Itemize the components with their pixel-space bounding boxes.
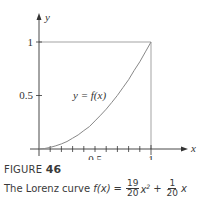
fraction-1-20: 1 20 xyxy=(166,179,179,198)
lorenz-curve-plot: y x 0.5 1 0.5 1 y = f(x) xyxy=(0,0,207,160)
figure-number: 46 xyxy=(46,163,62,176)
curve-label: y = f(x) xyxy=(72,89,106,102)
caption-equals: = xyxy=(114,182,122,195)
caption-func: f(x) xyxy=(93,182,110,195)
fraction-denominator: 20 xyxy=(166,189,179,198)
fraction-numerator: 1 xyxy=(168,179,176,189)
term-x: x xyxy=(181,182,187,195)
fraction-denominator: 20 xyxy=(126,189,139,198)
y-tick-label-0.5: 0.5 xyxy=(19,89,33,101)
fraction-19-20: 19 20 xyxy=(126,179,139,198)
x-axis-label: x xyxy=(190,142,196,154)
y-tick-label-1: 1 xyxy=(28,36,34,48)
term-x-squared: x2 xyxy=(140,180,150,196)
caption-prefix: The Lorenz curve xyxy=(4,182,93,195)
x-tick-label-1: 1 xyxy=(148,153,154,160)
x-tick-label-0.5: 0.5 xyxy=(88,153,102,160)
y-axis-label: y xyxy=(44,11,50,23)
x-axis-arrow-icon xyxy=(181,147,188,152)
figure-caption: FIGURE 46 The Lorenz curve f(x) = 19 20 … xyxy=(4,163,204,200)
figure-title: FIGURE 46 xyxy=(4,163,204,176)
y-axis-arrow-icon xyxy=(37,13,42,20)
caption-plus: + xyxy=(153,182,161,195)
figure-word: FIGURE xyxy=(4,164,42,175)
fraction-numerator: 19 xyxy=(126,179,139,189)
caption-text: The Lorenz curve f(x) = 19 20 x2 + 1 20 … xyxy=(4,176,204,200)
